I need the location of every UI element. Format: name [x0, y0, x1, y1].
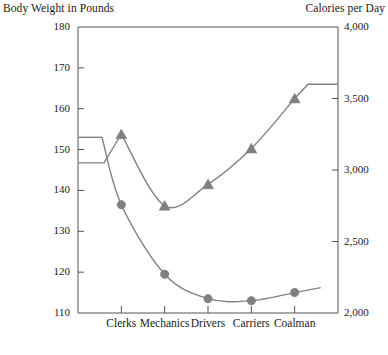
- left-tick-label: 150: [18, 143, 70, 155]
- x-axis-ticks: [121, 306, 294, 313]
- weight-marker: [290, 288, 298, 296]
- left-tick-label: 140: [18, 183, 70, 195]
- calories-marker: [116, 129, 127, 139]
- chart-canvas: [0, 0, 388, 355]
- plot-frame: [78, 27, 338, 313]
- left-tick-label: 160: [18, 102, 70, 114]
- weight-marker: [204, 295, 212, 303]
- chart-figure: Body Weight in Pounds Calories per Day 1…: [0, 0, 388, 355]
- right-tick-label: 3,500: [344, 92, 388, 104]
- right-tick-label: 4,000: [344, 20, 388, 32]
- left-axis-ticks: [78, 68, 84, 272]
- category-label: Coalman: [250, 317, 340, 329]
- right-tick-label: 2,000: [344, 306, 388, 318]
- left-tick-label: 130: [18, 224, 70, 236]
- right-tick-label: 3,000: [344, 163, 388, 175]
- weight-marker: [117, 201, 125, 209]
- weight-series: [78, 137, 321, 305]
- calories-marker: [203, 179, 214, 189]
- left-tick-label: 180: [18, 20, 70, 32]
- left-tick-label: 110: [18, 306, 70, 318]
- calories-series: [78, 84, 338, 210]
- left-tick-label: 170: [18, 61, 70, 73]
- weight-marker: [247, 297, 255, 305]
- weight-marker: [160, 270, 168, 278]
- left-tick-label: 120: [18, 265, 70, 277]
- right-axis-ticks: [332, 99, 338, 242]
- right-tick-label: 2,500: [344, 235, 388, 247]
